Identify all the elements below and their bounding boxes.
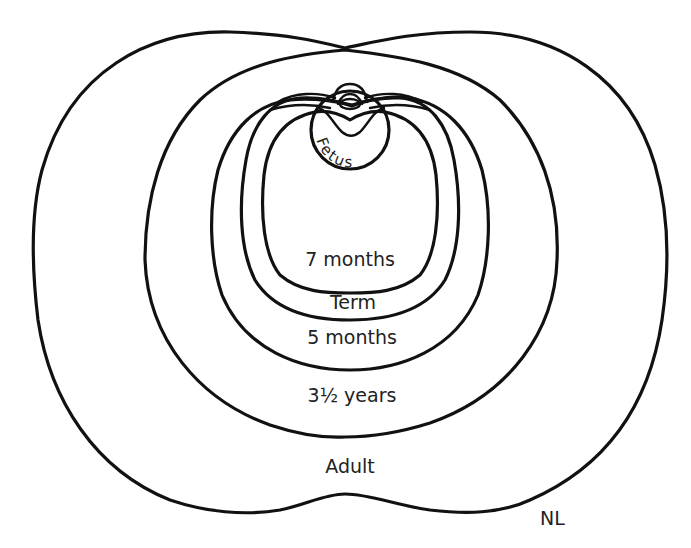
seven-months-label: 7 months <box>305 248 395 270</box>
growth-outline-diagram: Fetus 7 months Term 5 months 3½ years Ad… <box>0 0 691 548</box>
three-half-years-label: 3½ years <box>308 384 397 406</box>
five-months-label: 5 months <box>307 326 397 348</box>
adult-label: Adult <box>325 455 375 477</box>
corner-initials-label: NL <box>540 507 565 529</box>
term-label: Term <box>329 291 376 313</box>
fetus-label: Fetus <box>313 135 355 171</box>
term-outline <box>241 98 458 320</box>
